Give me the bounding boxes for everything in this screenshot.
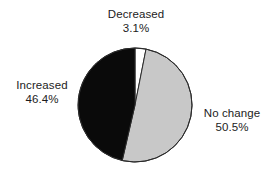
- pie-label-decreased-value: 3.1%: [0, 22, 272, 36]
- pie-label-increased-name: Increased: [8, 79, 76, 93]
- pie-label-no-change-value: 50.5%: [196, 121, 268, 135]
- pie-label-no-change-name: No change: [196, 107, 268, 121]
- pie-slice-increased[interactable]: [78, 48, 135, 161]
- pie-label-increased: Increased 46.4%: [8, 79, 76, 106]
- pie-slices: [78, 48, 192, 162]
- pie-label-no-change: No change 50.5%: [196, 107, 268, 134]
- pie-label-decreased: Decreased 3.1%: [0, 8, 272, 35]
- pie-label-increased-value: 46.4%: [8, 93, 76, 107]
- pie-chart-figure: Decreased 3.1% Increased 46.4% No change…: [0, 0, 272, 173]
- pie-label-decreased-name: Decreased: [0, 8, 272, 22]
